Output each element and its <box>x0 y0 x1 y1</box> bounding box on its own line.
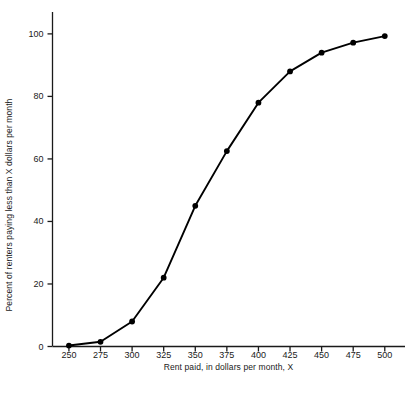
data-series-line <box>69 36 385 345</box>
data-point-marker <box>256 100 262 106</box>
data-point-marker <box>224 148 230 154</box>
data-point-markers <box>66 33 388 348</box>
x-axis-ticks <box>69 347 385 352</box>
y-axis-ticks <box>48 34 53 347</box>
axes <box>53 12 406 347</box>
figure-ogive-rent-distribution: 020406080100 250275300325350375400425450… <box>0 0 418 394</box>
data-point-marker <box>350 40 356 46</box>
data-point-marker <box>382 33 388 39</box>
data-point-marker <box>319 50 325 56</box>
data-point-marker <box>66 343 72 349</box>
data-point-marker <box>287 69 293 75</box>
data-point-marker <box>129 319 135 325</box>
figure-caption <box>52 386 405 394</box>
x-axis-title: Rent paid, in dollars per month, X <box>52 362 405 372</box>
data-point-marker <box>192 203 198 209</box>
data-point-marker <box>98 339 104 345</box>
data-point-marker <box>161 275 167 281</box>
line-chart-plot <box>0 0 418 394</box>
